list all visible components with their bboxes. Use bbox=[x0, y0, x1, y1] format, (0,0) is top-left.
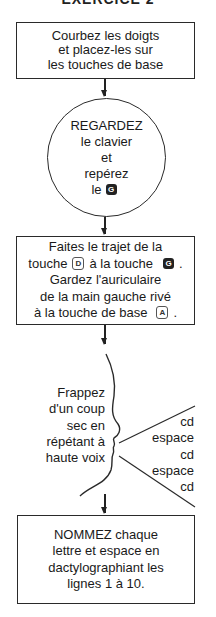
spoken-item: cd bbox=[152, 447, 194, 463]
step-box-name-letters: NOMMEZ chaque lettre et espace en dactyl… bbox=[17, 515, 195, 604]
strike-instruction: Frappez d'un coup sec en répétant à haut… bbox=[46, 385, 105, 466]
flow-arrow bbox=[104, 494, 106, 513]
spoken-item: cd bbox=[152, 479, 194, 495]
step5-line: dactylographiant les bbox=[48, 560, 164, 577]
instruction-line: haute voix bbox=[46, 450, 105, 466]
instruction-line: d'un coup bbox=[46, 401, 105, 417]
instruction-line: répétant à bbox=[46, 434, 105, 450]
instruction-line: sec en bbox=[46, 418, 105, 434]
spoken-item: espace bbox=[152, 430, 194, 446]
spoken-item: espace bbox=[152, 463, 194, 479]
step5-line: lettre et espace en bbox=[53, 543, 160, 560]
spoken-sequence: cd espace cd espace cd bbox=[152, 414, 194, 495]
spoken-item: cd bbox=[152, 414, 194, 430]
instruction-line: Frappez bbox=[46, 385, 105, 401]
step5-line: NOMMEZ chaque bbox=[54, 527, 158, 544]
step5-line: lignes 1 à 10. bbox=[67, 576, 144, 593]
